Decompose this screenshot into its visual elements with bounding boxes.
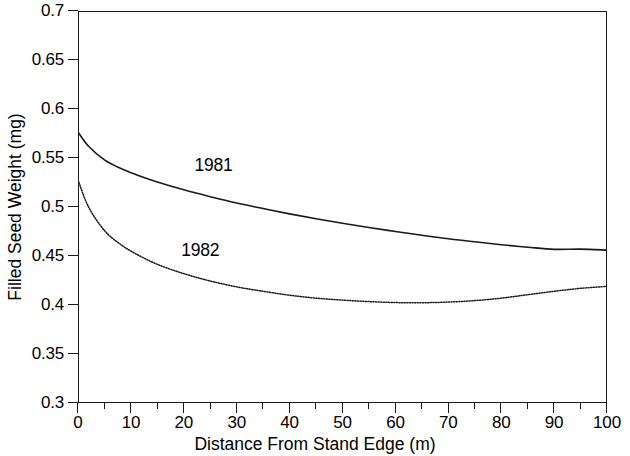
x-axis-tick-label: 40 [280,414,299,432]
x-axis-tick-label: 30 [227,414,246,432]
x-axis-minor-tick [104,403,105,409]
y-axis-tick [68,10,78,11]
x-axis-minor-tick [368,403,369,409]
x-axis-tick [500,403,501,413]
y-axis-tick-label: 0.65 [32,51,64,68]
data-curves [78,11,607,403]
x-axis-tick-label: 70 [439,414,458,432]
x-axis-tick-label: 100 [593,414,621,432]
x-axis-tick-label: 0 [73,414,82,432]
x-axis-tick [448,403,449,413]
y-axis-tick-label: 0.45 [32,247,64,264]
y-axis-tick-label: 0.7 [41,2,64,19]
x-axis-tick [606,403,607,413]
y-axis-tick [68,157,78,158]
y-axis-tick [68,108,78,109]
x-axis-minor-tick [474,403,475,409]
x-axis-tick-label: 10 [122,414,141,432]
y-axis-title: Filled Seed Weight (mg) [2,0,28,414]
y-axis-tick-label: 0.3 [41,394,64,411]
x-axis-tick [553,403,554,413]
y-axis-tick-label: 0.6 [41,100,64,117]
series-line-1982 [78,180,607,303]
y-axis-tick [68,353,78,354]
y-axis-tick [68,59,78,60]
y-axis-tick [68,206,78,207]
x-axis-tick-label: 60 [386,414,405,432]
y-axis-title-text: Filled Seed Weight (mg) [5,113,25,300]
x-axis-tick [183,403,184,413]
x-axis-tick-label: 50 [333,414,352,432]
x-axis-tick [395,403,396,413]
y-axis-tick [68,304,78,305]
series-line-1981 [78,132,607,250]
y-axis-tick-label: 0.4 [41,296,64,313]
y-axis-tick-label: 0.55 [32,149,64,166]
x-axis-minor-tick [527,403,528,409]
y-axis-tick-label: 0.5 [41,198,64,215]
y-axis-tick [68,255,78,256]
series-label-1981: 1981 [194,156,232,175]
x-axis-tick [236,403,237,413]
x-axis-minor-tick [580,403,581,409]
x-axis-minor-tick [262,403,263,409]
x-axis-minor-tick [421,403,422,409]
x-axis-tick-label: 20 [175,414,194,432]
x-axis-tick [77,403,78,413]
x-axis-tick-label: 80 [492,414,511,432]
x-axis-tick-label: 90 [545,414,564,432]
x-axis-minor-tick [157,403,158,409]
y-axis-tick-label: 0.35 [32,345,64,362]
x-axis-tick [342,403,343,413]
x-axis-tick [289,403,290,413]
series-label-1982: 1982 [181,241,219,260]
x-axis-minor-tick [315,403,316,409]
x-axis-tick [130,403,131,413]
x-axis-title-text: Distance From Stand Edge (m) [194,434,435,454]
x-axis-minor-tick [210,403,211,409]
x-axis-title: Distance From Stand Edge (m) [0,434,630,454]
chart-figure: Filled Seed Weight (mg) 0.30.350.40.450.… [0,0,630,456]
